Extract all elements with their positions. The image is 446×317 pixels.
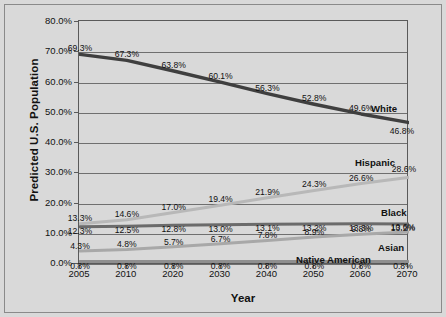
data-point-label: 17.0% <box>157 202 191 212</box>
data-point-label: 52.8% <box>297 93 331 103</box>
data-point-label: 21.9% <box>250 187 284 197</box>
data-point-label: 12.3% <box>63 226 97 236</box>
series-label-asian: Asian <box>378 242 404 253</box>
data-point-label: 4.8% <box>110 239 144 249</box>
series-label-hispanic: Hispanic <box>355 157 395 168</box>
data-point-label: 13.3% <box>63 213 97 223</box>
data-point-label: 6.7% <box>204 234 238 244</box>
data-point-label: 0.8% <box>250 261 284 271</box>
data-point-label: 14.6% <box>110 209 144 219</box>
data-point-label: 67.3% <box>110 49 144 59</box>
data-point-label: 19.4% <box>204 194 238 204</box>
x-axis-title: Year <box>78 292 408 304</box>
series-label-white: White <box>371 103 397 114</box>
y-axis-tick-label: 30.0% <box>12 166 72 177</box>
data-point-label: 12.5% <box>110 225 144 235</box>
y-axis-tick-label: 50.0% <box>12 106 72 117</box>
y-axis-tick-label: 80.0% <box>12 15 72 26</box>
data-point-label: 8.9% <box>297 227 331 237</box>
data-point-label: 63.8% <box>157 60 191 70</box>
data-point-label: 24.3% <box>297 179 331 189</box>
data-point-label: 0.8% <box>63 261 97 271</box>
data-point-label: 12.8% <box>157 224 191 234</box>
data-point-label: 4.3% <box>63 241 97 251</box>
data-point-label: 69.3% <box>63 43 97 53</box>
data-point-label: 56.3% <box>250 83 284 93</box>
plot-area: 69.3%67.3%63.8%60.1%56.3%52.8%49.6%46.8%… <box>78 20 408 264</box>
series-label-black: Black <box>381 207 407 218</box>
y-axis-tick-label: 60.0% <box>12 76 72 87</box>
data-point-label: 0.8% <box>110 261 144 271</box>
data-point-label: 13.0% <box>204 224 238 234</box>
data-point-label: 46.8% <box>385 126 419 136</box>
data-point-label: 26.6% <box>344 173 378 183</box>
data-point-label: 60.1% <box>204 71 238 81</box>
chart-figure: Predicted U.S. Population Year 0.0%10.0%… <box>0 0 446 317</box>
data-point-label: 0.8% <box>386 261 420 271</box>
data-point-label: 10.6% <box>386 222 420 232</box>
y-axis-tick-label: 20.0% <box>12 197 72 208</box>
data-point-label: 0.8% <box>204 261 238 271</box>
data-point-label: 5.7% <box>157 237 191 247</box>
data-point-label: 0.8% <box>157 261 191 271</box>
data-point-label: 9.8% <box>344 224 378 234</box>
y-axis-tick-label: 40.0% <box>12 136 72 147</box>
data-point-label: 7.8% <box>250 230 284 240</box>
series-label-native-american: Native American <box>296 254 371 265</box>
y-axis-title: Predicted U.S. Population <box>28 50 40 210</box>
